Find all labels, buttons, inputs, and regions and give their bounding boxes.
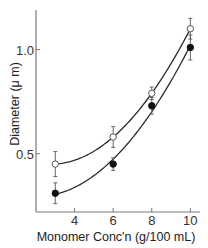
x-tick-label: 8 <box>148 213 155 228</box>
filled-data-point <box>110 161 116 167</box>
x-tick-label: 10 <box>183 213 197 228</box>
filled-data-point <box>149 103 155 109</box>
fit-curves <box>55 29 190 195</box>
x-ticks: 46810 <box>71 208 198 228</box>
data-points <box>52 18 193 203</box>
open-data-point <box>110 134 116 140</box>
filled-data-point <box>187 44 193 50</box>
filled-circles-fit-curve <box>55 45 190 194</box>
axes <box>36 10 200 212</box>
x-tick-label: 4 <box>71 213 78 228</box>
open-data-point <box>187 26 193 32</box>
open-data-point <box>52 161 58 167</box>
open-circles-fit-curve <box>55 29 190 164</box>
y-tick-label: 1.0 <box>16 43 34 58</box>
y-axis-label: Diameter (μ m) <box>8 62 22 146</box>
x-tick-label: 6 <box>110 213 117 228</box>
y-tick-label: 0.5 <box>16 147 34 162</box>
chart: 46810 0.51.0 Monomer Conc'n (g/100 mL) D… <box>0 0 208 248</box>
open-data-point <box>149 90 155 96</box>
x-axis-label: Monomer Conc'n (g/100 mL) <box>37 230 196 244</box>
filled-data-point <box>52 190 58 196</box>
